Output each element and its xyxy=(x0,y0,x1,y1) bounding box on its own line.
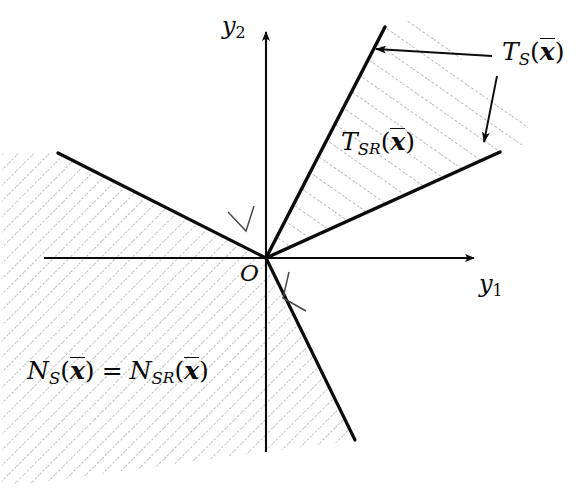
ts-argument: x xyxy=(540,38,555,65)
ns-left-subscript: S xyxy=(49,369,60,388)
ns-right-argument: x xyxy=(184,357,199,384)
ns-relation: = xyxy=(102,356,123,385)
ns-left-argument: x xyxy=(70,357,85,384)
tangent-cone-SR-label: TSR(x) xyxy=(341,128,415,158)
y-axis-label: y2 xyxy=(222,14,246,41)
figure-container: TS(x) TSR(x) NS(x)=NSR(x) y1 y2 O xyxy=(0,0,580,489)
normal-cone-equation-label: NS(x)=NSR(x) xyxy=(27,357,209,387)
y1-base: y xyxy=(479,270,493,298)
x-axis-label: y1 xyxy=(479,272,503,299)
right-angle-mark-upper-left xyxy=(228,206,254,231)
ns-right-base: N xyxy=(130,356,152,385)
ns-right-subscript: S xyxy=(151,369,162,388)
ts-subscript: S xyxy=(519,50,530,69)
y1-subscript: 1 xyxy=(493,281,503,300)
ns-left-base: N xyxy=(27,356,49,385)
tsr-subscript-sub: R xyxy=(369,140,381,158)
origin-label: O xyxy=(240,262,259,285)
diagram-canvas xyxy=(0,0,580,489)
tsr-argument: x xyxy=(390,128,405,155)
y2-base: y xyxy=(222,12,236,40)
tangent-cone-S-label: TS(x) xyxy=(502,38,564,68)
tsr-base: T xyxy=(341,127,358,156)
ns-right-subscript-sub: R xyxy=(163,369,175,387)
ts-base: T xyxy=(502,37,519,66)
tsr-subscript: S xyxy=(358,140,369,159)
y2-subscript: 2 xyxy=(236,23,246,42)
